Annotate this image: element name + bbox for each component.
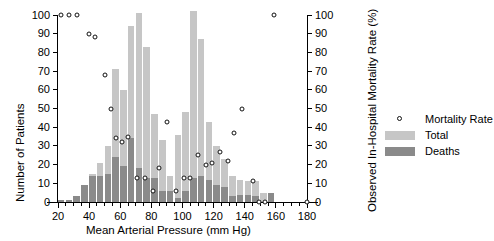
bar-segment-deaths [66, 200, 73, 202]
x-axis-minor-tick [268, 203, 269, 206]
y-axis-right-tick-label: 20 [315, 159, 345, 170]
x-axis-tick-label: 140 [236, 211, 254, 222]
y-axis-left-tick-label: 60 [12, 84, 50, 95]
bar-segment-deaths [128, 138, 135, 202]
bar-segment-deaths [175, 198, 182, 202]
mortality-rate-point [74, 13, 79, 18]
bar-segment-deaths [190, 178, 197, 202]
histogram-bar [206, 15, 213, 202]
legend-item-label: Mortality Rate [425, 113, 493, 126]
x-axis-major-tick [89, 203, 90, 208]
mortality-rate-point [225, 158, 230, 163]
bar-segment-deaths [120, 166, 127, 202]
x-axis-minor-tick [135, 203, 136, 206]
histogram-bar [81, 15, 88, 202]
mortality-rate-point [182, 175, 187, 180]
x-axis-minor-tick [229, 203, 230, 206]
x-axis-minor-tick [190, 203, 191, 206]
y-axis-right-tick [308, 164, 312, 165]
y-axis-right-tick [308, 108, 312, 109]
histogram-bar [268, 15, 275, 202]
bar-segment-deaths [206, 180, 213, 202]
mortality-rate-point [196, 153, 201, 158]
mortality-rate-point [231, 130, 236, 135]
histogram-bar [151, 15, 158, 202]
mortality-rate-point [239, 106, 244, 111]
y-axis-left-tick [53, 108, 57, 109]
y-axis-left-tick-label: 10 [12, 178, 50, 189]
bar-segment-deaths [81, 185, 88, 202]
chart-figure: Number of Patients Observed In-Hospital … [0, 0, 494, 241]
x-axis-major-tick [58, 203, 59, 208]
histogram-bar [66, 15, 73, 202]
mortality-rate-point [102, 72, 107, 77]
y-axis-right-tick [308, 127, 312, 128]
plot-area [58, 15, 307, 202]
histogram-bar [221, 15, 228, 202]
y-axis-right-line [307, 15, 308, 203]
histogram-bar [175, 15, 182, 202]
mortality-rate-point [66, 13, 71, 18]
mortality-rate-point [157, 166, 162, 171]
y-axis-right-tick [308, 89, 312, 90]
bar-segment-total [182, 112, 189, 202]
x-axis-tick-label: 100 [173, 211, 191, 222]
y-axis-left-tick-label: 20 [12, 159, 50, 170]
histogram-bar [159, 15, 166, 202]
mortality-rate-point [143, 175, 148, 180]
mortality-rate-point [126, 134, 131, 139]
histogram-bar [167, 15, 174, 202]
mortality-rate-point [93, 35, 98, 40]
x-axis-minor-tick [205, 203, 206, 206]
bar-segment-total [190, 11, 197, 202]
y-axis-right-tick [308, 33, 312, 34]
y-axis-left-tick [53, 52, 57, 53]
bar-segment-deaths [105, 174, 112, 202]
mortality-rate-point [217, 149, 222, 154]
bar-segment-deaths [89, 176, 96, 202]
y-axis-right-tick [308, 183, 312, 184]
y-axis-left-tick [53, 202, 57, 203]
y-axis-left-tick-label: 50 [12, 103, 50, 114]
bar-segment-deaths [229, 196, 236, 202]
x-axis-major-tick [213, 203, 214, 208]
x-axis-major-tick [151, 203, 152, 208]
y-axis-left-tick [53, 164, 57, 165]
x-axis-major-tick [244, 203, 245, 208]
x-axis-minor-tick [198, 203, 199, 206]
x-axis-tick-label: 180 [298, 211, 316, 222]
x-axis-minor-tick [81, 203, 82, 206]
y-axis-right-tick-label: 0 [315, 197, 345, 208]
bar-segment-deaths [97, 176, 104, 202]
x-axis-minor-tick [65, 203, 66, 206]
y-axis-left-tick [53, 89, 57, 90]
y-axis-left-tick-label: 0 [12, 197, 50, 208]
bar-segment-deaths [237, 195, 244, 202]
bar-segment-deaths [198, 176, 205, 202]
mortality-rate-point [119, 140, 124, 145]
histogram-bar [190, 15, 197, 202]
mortality-rate-point [113, 136, 118, 141]
mortality-rate-point [164, 119, 169, 124]
x-axis-tick-label: 20 [52, 211, 64, 222]
mortality-rate-point [203, 162, 208, 167]
x-axis-tick-label: 120 [204, 211, 222, 222]
y-axis-right-tick [308, 71, 312, 72]
mortality-rate-point [150, 188, 155, 193]
y-axis-right-tick-label: 80 [315, 47, 345, 58]
mortality-rate-point [108, 106, 113, 111]
y-axis-right-tick-label: 40 [315, 122, 345, 133]
mortality-rate-point [305, 200, 310, 205]
histogram-bar [136, 15, 143, 202]
y-axis-right-tick-label: 60 [315, 84, 345, 95]
x-axis-minor-tick [283, 203, 284, 206]
x-axis-minor-tick [299, 203, 300, 206]
x-axis-minor-tick [96, 203, 97, 206]
x-axis-minor-tick [166, 203, 167, 206]
x-axis-tick-label: 160 [267, 211, 285, 222]
x-axis-minor-tick [73, 203, 74, 206]
y-axis-left-tick [53, 15, 57, 16]
x-axis-minor-tick [174, 203, 175, 206]
histogram-bar [143, 15, 150, 202]
bar-segment-deaths [112, 157, 119, 202]
